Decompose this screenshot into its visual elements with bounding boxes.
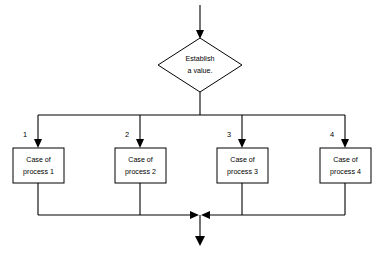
process-box-3-line-2: process 3 <box>227 168 258 176</box>
process-box-2-line-1: Case of <box>128 156 152 164</box>
exit-arrow-head-icon <box>195 236 205 246</box>
process-box-2: Case of process 2 <box>115 148 166 183</box>
decision-diamond-shape <box>158 38 242 92</box>
process-box-4-line-1: Case of <box>333 156 357 164</box>
flowchart-svg: Establish a value. 1 2 3 4 <box>0 0 387 255</box>
process-box-1: Case of process 1 <box>13 148 64 183</box>
branch-2-arrow-head-icon <box>136 139 144 148</box>
branch-3-connector <box>238 115 246 148</box>
decision-node: Establish a value. <box>158 38 242 92</box>
decision-label-line-2: a value. <box>188 67 213 75</box>
branch-2-connector <box>136 115 144 148</box>
branch-1-connector <box>34 115 42 148</box>
entry-arrow-connector <box>196 5 204 39</box>
merge-arrow-head-right-icon <box>201 211 210 219</box>
process-box-1-shape <box>13 148 64 183</box>
branch-label-2: 2 <box>125 130 129 139</box>
branch-3-arrow-head-icon <box>238 139 246 148</box>
flowchart-canvas: Establish a value. 1 2 3 4 <box>0 0 387 255</box>
branch-4-connector <box>341 115 349 148</box>
process-box-1-line-1: Case of <box>26 156 50 164</box>
branch-1-arrow-head-icon <box>34 139 42 148</box>
branch-label-1: 1 <box>23 130 27 139</box>
process-box-4-line-2: process 4 <box>330 168 361 176</box>
decision-label-line-1: Establish <box>186 55 215 63</box>
process-box-2-line-2: process 2 <box>125 168 156 176</box>
process-box-1-line-2: process 1 <box>23 168 54 176</box>
branch-4-arrow-head-icon <box>341 139 349 148</box>
process-box-4: Case of process 4 <box>320 148 371 183</box>
merge-arrow-head-left-icon <box>190 211 199 219</box>
process-box-3-shape <box>217 148 268 183</box>
branch-label-4: 4 <box>330 130 334 139</box>
process-box-3: Case of process 3 <box>217 148 268 183</box>
exit-arrow-connector <box>195 215 205 246</box>
process-box-4-shape <box>320 148 371 183</box>
process-box-2-shape <box>115 148 166 183</box>
process-box-3-line-1: Case of <box>230 156 254 164</box>
branch-label-3: 3 <box>227 130 231 139</box>
